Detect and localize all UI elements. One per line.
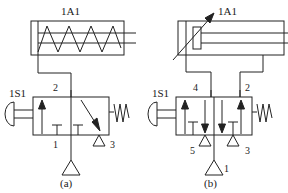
cylinder-a-tag: 1A1 [61,6,80,17]
valve-a-tag: 1S1 [9,88,26,99]
valve-a-port-2-label: 2 [53,83,58,93]
cylinder-b-barrel [178,21,284,55]
spring-a-coil [114,104,129,122]
cylinder-a-barrel [31,21,124,55]
actuator-b-pushbutton [148,102,176,126]
valve-b-left-box-flow [182,100,209,135]
cylinder-b-adjust-shaft [173,16,212,60]
supply-b-triangle [205,160,223,175]
valve-b [176,90,252,160]
valve-b-port-5-label: 5 [190,146,195,156]
valve-b-port5-exhaust [199,135,211,146]
panel-b-caption: (b) [204,178,217,189]
cylinder-a [31,21,136,55]
valve-b-left-up-arrowhead [182,100,189,109]
cylinder-b [173,13,288,60]
actuator-a-mushroom-head [5,102,14,126]
spring-return-b [252,104,272,122]
spring-return-a [109,104,129,122]
valve-b-left-down-arrowhead [202,124,209,133]
valve-a-left-arrowhead [39,100,46,109]
valve-b-port-2-label: 2 [245,83,250,93]
valve-a-right-box-flow [73,100,100,135]
valve-b-right-down-arrowhead [219,124,226,133]
valve-a [33,90,109,160]
spring-b-coil [257,104,272,122]
supply-a-triangle [62,160,80,175]
cylinder-a-spring [38,26,121,52]
valve-a-left-box-flow [39,100,63,135]
supply-b [205,160,223,175]
valve-b-port3-exhaust [227,135,239,146]
valve-b-tag: 1S1 [152,88,169,99]
valve-b-port-3-label: 3 [245,146,250,156]
valve-a-port-3-label: 3 [110,140,115,150]
valve-a-port3-exhaust [93,135,105,146]
pneumatic-circuit-svg [0,0,288,193]
panel-a-caption: (a) [60,178,72,189]
valve-b-port-1-label: 1 [224,164,229,174]
valve-a-port-1-label: 1 [53,140,58,150]
supply-a [62,160,80,175]
cylinder-b-tag: 1A1 [218,6,237,17]
valve-b-right-up-arrowhead [238,100,245,109]
figure-canvas: 1A1 1S1 2 1 3 (a) 1A1 1S1 4 2 5 3 1 (b) [0,0,288,193]
valve-b-port-4-label: 4 [193,83,198,93]
actuator-a-pushbutton [5,102,33,126]
valve-b-right-box-flow [219,100,245,135]
actuator-b-mushroom-head [148,102,157,126]
